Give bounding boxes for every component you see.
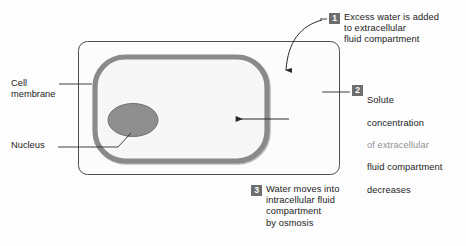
callout-3: 3 Water moves into intracellular fluid c… [251, 184, 381, 229]
callout-2-line-4: fluid compartment [367, 162, 442, 173]
callout-1: 1 Excess water is added to extracellular… [329, 12, 463, 46]
callout-3-number-badge: 3 [251, 185, 262, 196]
callout-3-text: Water moves into intracellular fluid com… [266, 184, 339, 229]
callout-1-text: Excess water is added to extracellular f… [344, 12, 439, 46]
nucleus-shape [108, 104, 158, 137]
callout-1-number-badge: 1 [329, 13, 340, 24]
callout-2-line-1: Solute [367, 95, 442, 106]
label-cell-membrane: Cell membrane [11, 78, 55, 100]
callout-2-line-2: concentration [367, 118, 442, 129]
osmosis-diagram: Cell membrane Nucleus 1 Excess water is … [0, 0, 466, 246]
callout-2-line-3: of extracellular [367, 140, 442, 151]
label-nucleus: Nucleus [11, 140, 45, 151]
callout-2-number-badge: 2 [352, 85, 363, 96]
